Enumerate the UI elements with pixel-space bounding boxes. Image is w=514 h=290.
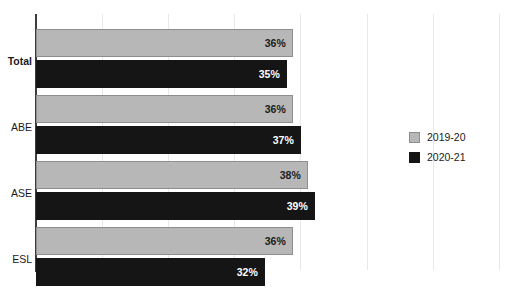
bar-value-label: 32%: [237, 267, 258, 278]
bar-esl-2019-20: 36%: [36, 227, 293, 255]
bar-value-label: 38%: [280, 170, 301, 181]
bar-total-2019-20: 36%: [36, 29, 293, 57]
bar-value-label: 37%: [273, 135, 294, 146]
category-axis-labels: Total ABE ASE ESL: [0, 14, 32, 270]
bar-esl-2020-21: 32%: [36, 258, 265, 286]
bar-value-label: 36%: [265, 104, 286, 115]
bar-value-label: 35%: [259, 69, 280, 80]
bar-ase-2019-20: 38%: [36, 161, 308, 189]
category-label-total: Total: [8, 56, 32, 67]
bar-ase-2020-21: 39%: [36, 192, 315, 220]
chart-legend: 2019-20 2020-21: [409, 129, 466, 169]
bar-value-label: 39%: [287, 201, 308, 212]
bar-value-label: 36%: [265, 38, 286, 49]
legend-item-2019-20[interactable]: 2019-20: [409, 129, 466, 145]
bar-value-label: 36%: [265, 236, 286, 247]
legend-item-2020-21[interactable]: 2020-21: [409, 149, 466, 165]
bar-total-2020-21: 35%: [36, 60, 287, 88]
category-label-ase: ASE: [11, 188, 32, 199]
bar-abe-2019-20: 36%: [36, 95, 293, 123]
category-label-abe: ABE: [11, 122, 32, 133]
category-label-esl: ESL: [12, 254, 32, 265]
legend-label: 2020-21: [427, 152, 466, 163]
gray-square-swatch-icon: [409, 132, 420, 143]
bar-abe-2020-21: 37%: [36, 126, 301, 154]
black-square-swatch-icon: [409, 152, 420, 163]
bar-chart: Total ABE ASE ESL 36% 35% 36% 37% 3: [0, 0, 514, 290]
legend-label: 2019-20: [427, 132, 466, 143]
